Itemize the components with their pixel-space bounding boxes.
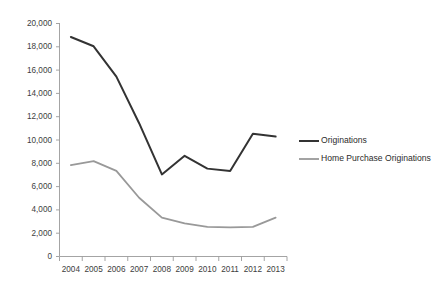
chart-canvas: 02,0004,0006,0008,00010,00012,00014,0001…: [0, 0, 444, 289]
y-axis-tick-label: 4,000: [32, 205, 53, 214]
y-axis-tick-labels: 02,0004,0006,0008,00010,00012,00014,0001…: [27, 19, 52, 261]
x-axis-tick-marks: [60, 257, 288, 262]
series-line-2: [71, 161, 276, 227]
x-axis-tick-label: 2007: [130, 265, 149, 274]
x-axis-tick-label: 2004: [62, 265, 81, 274]
y-axis-tick-label: 12,000: [27, 112, 52, 121]
x-axis-tick-label: 2006: [107, 265, 126, 274]
chart-legend: OriginationsHome Purchase Originations: [299, 135, 431, 163]
y-axis-tick-label: 18,000: [27, 42, 52, 51]
y-axis-tick-label: 14,000: [27, 89, 52, 98]
y-axis-tick-label: 2,000: [32, 229, 53, 238]
series-line-1: [71, 37, 276, 174]
x-axis-tick-label: 2010: [198, 265, 217, 274]
y-axis-tick-marks: [56, 24, 60, 257]
y-axis-tick-label: 8,000: [32, 159, 53, 168]
x-axis-tick-label: 2005: [85, 265, 104, 274]
legend-label-2: Home Purchase Originations: [321, 153, 431, 163]
y-axis-tick-label: 20,000: [27, 19, 52, 28]
x-axis-tick-label: 2008: [153, 265, 172, 274]
y-axis-tick-label: 16,000: [27, 66, 52, 75]
series-lines: [71, 37, 276, 227]
x-axis-tick-label: 2011: [221, 265, 239, 274]
y-axis-tick-label: 6,000: [32, 182, 53, 191]
x-axis-tick-label: 2013: [267, 265, 286, 274]
x-axis-tick-labels: 2004200520062007200820092010201120122013: [62, 265, 285, 274]
x-axis-tick-label: 2009: [176, 265, 195, 274]
legend-label-1: Originations: [321, 135, 367, 145]
y-axis-tick-label: 10,000: [27, 136, 52, 145]
x-axis-tick-label: 2012: [244, 265, 263, 274]
line-chart: 02,0004,0006,0008,00010,00012,00014,0001…: [0, 0, 444, 289]
y-axis-tick-label: 0: [47, 252, 52, 261]
